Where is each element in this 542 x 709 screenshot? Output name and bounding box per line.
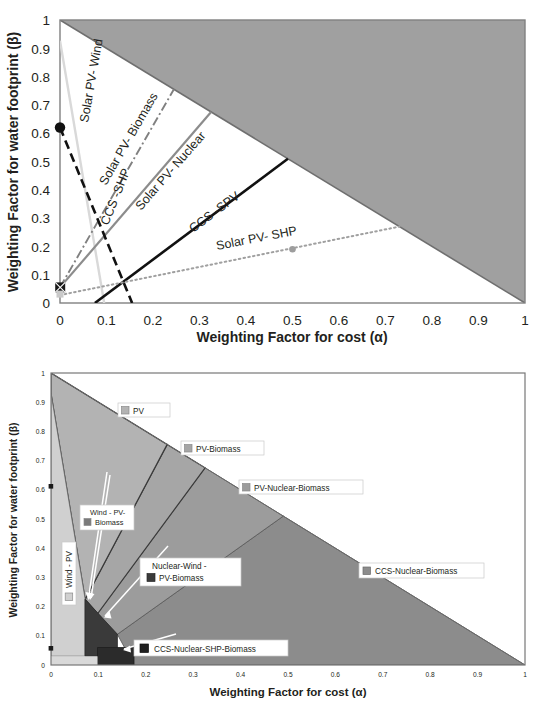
legend-swatch-pv: [122, 407, 130, 415]
legend-swatch-wind-pv-biomass: [84, 519, 91, 526]
bottom-xtick: 0.3: [189, 671, 198, 678]
bottom-ytick: 0.3: [36, 574, 45, 581]
top-ytick: 0.1: [31, 268, 50, 283]
top-xtick: 0.9: [469, 313, 488, 328]
top-ytick: 0.9: [31, 42, 50, 57]
top-xtick: 0.4: [237, 313, 256, 328]
legend-callout-nuclear-wind-pv-biomass: Nuclear-Wind - PV-Biomass: [140, 558, 241, 586]
legend-swatch-nuclear-wind-pv-biomass: [147, 574, 155, 582]
region-axis-strip: [51, 656, 98, 665]
bottom-xtick: 0.2: [141, 671, 150, 678]
bottom-xtick: 0: [49, 671, 53, 678]
legend-label-wind-pv-biomass-line1: Wind - PV-: [90, 508, 126, 517]
bottom-ytick: 0.1: [36, 632, 45, 639]
legend-swatch-pv-nuclear-biomass: [243, 484, 251, 492]
bottom-ytick: 0.6: [36, 486, 45, 493]
top-y-axis: 1 0.9 0.8 0.7 0.6 0.5 0.4 0.3 0.2 0.1 0: [31, 13, 50, 311]
top-ytick: 0: [42, 296, 50, 311]
legend-label-nuclear-wind-line1: Nuclear-Wind -: [152, 562, 207, 571]
bottom-marker-low: [49, 646, 54, 651]
bottom-ytick: 0.7: [36, 457, 45, 464]
legend-callout-ccs-nuclear-biomass: CCS-Nuclear-Biomass: [359, 563, 484, 578]
marker-ccs-shp-endpoint: [55, 122, 65, 132]
bottom-marker-high: [49, 484, 54, 489]
top-xtick: 0: [56, 313, 64, 328]
legend-callout-pv-biomass: PV-Biomass: [181, 441, 264, 455]
bottom-xtick: 0.1: [94, 671, 103, 678]
legend-label-ccs-nuclear-biomass: CCS-Nuclear-Biomass: [375, 567, 457, 576]
top-x-axis: 0 0.1 0.2 0.3 0.4 0.5 0.6 0.7 0.8 0.9 1: [56, 313, 529, 328]
top-chart-panel: Solar PV- Wind Solar PV- Biomass Solar P…: [0, 0, 542, 360]
legend-swatch-wind-pv: [65, 593, 73, 601]
legend-label-pv: PV: [133, 407, 144, 416]
top-y-axis-title: Weighting Factor for water footprint (β): [5, 32, 21, 292]
bottom-ytick: 0.4: [36, 545, 45, 552]
legend-swatch-ccs-nuclear-shp-biomass: [140, 644, 149, 653]
bottom-xtick: 0.4: [236, 671, 245, 678]
top-ytick: 0.8: [31, 70, 50, 85]
top-xtick: 0.6: [330, 313, 349, 328]
bottom-xtick: 0.9: [473, 671, 482, 678]
top-ytick: 0.7: [31, 98, 50, 113]
bottom-xtick: 0.6: [331, 671, 340, 678]
bottom-xtick: 0.5: [283, 671, 292, 678]
bottom-y-axis-title: Weighting Factor for water footprint (β): [7, 422, 19, 617]
top-xtick: 1: [521, 313, 529, 328]
top-xtick: 0.5: [283, 313, 302, 328]
bottom-xtick: 0.7: [378, 671, 387, 678]
top-ytick: 0.4: [31, 183, 50, 198]
bottom-ytick: 1: [41, 370, 45, 377]
bottom-ytick: 0.8: [36, 428, 45, 435]
legend-label-ccs-nuclear-shp-biomass: CCS-Nuclear-SHP-Biomass: [154, 645, 256, 654]
legend-swatch-pv-biomass: [185, 445, 193, 453]
legend-callout-wind-pv: Wind - PV: [62, 542, 76, 605]
top-xtick: 0.8: [423, 313, 442, 328]
bottom-x-axis: 0 0.1 0.2 0.3 0.4 0.5 0.6 0.7 0.8 0.9 1: [49, 671, 527, 678]
bottom-xtick: 0.8: [426, 671, 435, 678]
top-xtick: 0.1: [97, 313, 116, 328]
legend-label-wind-pv-biomass-line2: Biomass: [95, 518, 124, 527]
legend-swatch-ccs-nuclear-biomass: [363, 567, 371, 575]
legend-label-nuclear-wind-line2: PV-Biomass: [159, 574, 204, 583]
bottom-ytick: 0.2: [36, 603, 45, 610]
legend-label-wind-pv: Wind - PV: [65, 551, 74, 588]
bottom-x-axis-title: Weighting Factor for cost (α): [210, 686, 367, 698]
legend-callout-pv: PV: [118, 403, 170, 417]
bottom-ytick: 0.5: [36, 516, 45, 523]
top-ytick: 0.6: [31, 126, 50, 141]
bottom-chart-panel: PV PV-Biomass PV-Nuclear-Biomass Wind - …: [0, 360, 542, 709]
legend-callout-pv-nuclear-biomass: PV-Nuclear-Biomass: [239, 480, 363, 494]
top-ytick: 1: [42, 13, 50, 28]
top-xtick: 0.7: [376, 313, 395, 328]
top-xtick: 0.3: [190, 313, 209, 328]
legend-callout-ccs-nuclear-shp-biomass: CCS-Nuclear-SHP-Biomass: [134, 640, 288, 656]
top-ytick: 0.3: [31, 211, 50, 226]
top-xtick: 0.2: [144, 313, 163, 328]
legend-callout-wind-pv-biomass: Wind - PV- Biomass: [80, 505, 134, 530]
top-ytick: 0.2: [31, 240, 50, 255]
bottom-ytick: 0.9: [36, 399, 45, 406]
marker-solar-pv-shp-mid: [289, 246, 296, 253]
bottom-y-axis: 1 0.9 0.8 0.7 0.6 0.5 0.4 0.3 0.2 0.1 0: [36, 370, 46, 669]
bottom-ytick: 0: [41, 662, 45, 669]
top-chart-svg: Solar PV- Wind Solar PV- Biomass Solar P…: [0, 0, 542, 360]
top-ytick: 0.5: [31, 155, 50, 170]
bottom-xtick: 1: [523, 671, 527, 678]
top-x-axis-title: Weighting Factor for cost (α): [196, 329, 387, 345]
bottom-chart-svg: PV PV-Biomass PV-Nuclear-Biomass Wind - …: [0, 360, 542, 709]
legend-label-pv-nuclear-biomass: PV-Nuclear-Biomass: [254, 484, 330, 493]
legend-label-pv-biomass: PV-Biomass: [196, 445, 241, 454]
